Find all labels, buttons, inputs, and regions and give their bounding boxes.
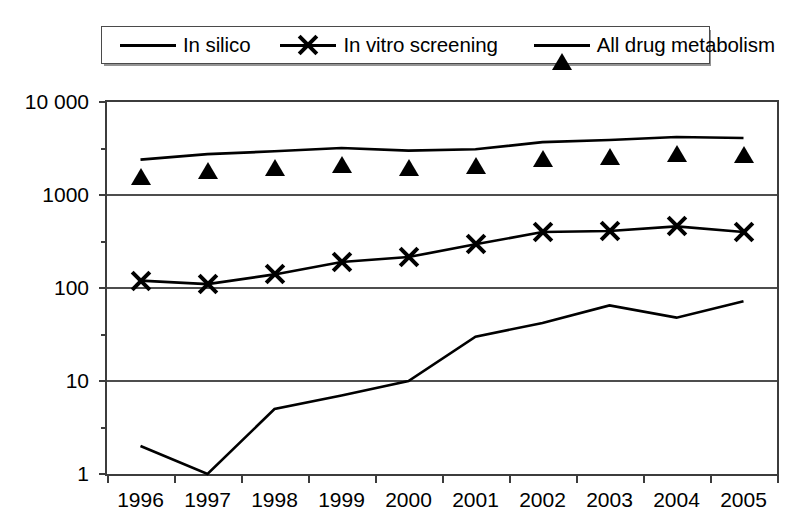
x-axis-label: 2005 xyxy=(720,488,767,512)
data-point xyxy=(466,140,486,158)
x-axis-label: 2003 xyxy=(586,488,633,512)
y-axis-label: 1000 xyxy=(42,183,99,207)
data-point xyxy=(600,131,620,149)
x-axis-tick xyxy=(174,474,176,483)
plot-area: 10 0001000100101199619971998199920002001… xyxy=(105,100,779,476)
x-axis-label: 1997 xyxy=(184,488,231,512)
triangle-marker-icon xyxy=(533,133,553,167)
triangle-marker-icon xyxy=(667,128,687,162)
data-point xyxy=(265,142,285,160)
x-axis-tick xyxy=(576,474,578,483)
chart-root: In silico In vitro screening All drug me… xyxy=(0,0,811,531)
data-point xyxy=(734,129,754,147)
data-point xyxy=(667,128,687,146)
triangle-marker-icon xyxy=(131,151,151,185)
legend-item-in-silico: In silico xyxy=(120,33,250,57)
legend-label: In silico xyxy=(183,33,250,57)
x-axis-tick xyxy=(509,474,511,483)
chart-legend: In silico In vitro screening All drug me… xyxy=(101,26,710,64)
x-axis-tick xyxy=(375,474,377,483)
x-axis-tick xyxy=(710,474,712,483)
series-line xyxy=(141,226,744,284)
triangle-marker-icon xyxy=(198,145,218,179)
x-axis-label: 1998 xyxy=(251,488,298,512)
y-axis-tick xyxy=(99,473,107,475)
y-axis-label: 10 xyxy=(66,369,99,393)
triangle-marker-icon xyxy=(734,129,754,163)
x-axis-tick xyxy=(241,474,243,483)
legend-label: In vitro screening xyxy=(343,33,497,57)
x-axis-label: 1999 xyxy=(318,488,365,512)
triangle-marker-icon xyxy=(332,139,352,173)
legend-item-in-vitro-screening: In vitro screening xyxy=(280,33,497,57)
y-axis-tick xyxy=(99,287,107,289)
triangle-marker-icon xyxy=(600,131,620,165)
data-point xyxy=(131,151,151,169)
x-axis-tick xyxy=(442,474,444,483)
y-axis-label: 1 xyxy=(77,462,99,486)
data-point xyxy=(332,139,352,157)
x-axis-label: 2001 xyxy=(452,488,499,512)
x-axis-tick xyxy=(777,474,779,483)
cross-marker-icon xyxy=(280,35,336,55)
series-line xyxy=(141,301,744,474)
series-line xyxy=(141,137,744,160)
data-point xyxy=(533,133,553,151)
x-axis-label: 2002 xyxy=(519,488,566,512)
y-axis-tick xyxy=(99,194,107,196)
y-axis-label: 10 000 xyxy=(25,90,99,114)
triangle-marker-icon xyxy=(534,35,590,55)
triangle-marker-icon xyxy=(399,142,419,176)
y-axis-tick xyxy=(99,101,107,103)
data-point xyxy=(399,142,419,160)
legend-label: All drug metabolism xyxy=(597,33,775,57)
y-axis-tick xyxy=(99,380,107,382)
x-axis-label: 2000 xyxy=(385,488,432,512)
x-axis-label: 1996 xyxy=(117,488,164,512)
x-axis-tick xyxy=(107,474,109,483)
data-point xyxy=(198,145,218,163)
x-axis-tick xyxy=(643,474,645,483)
triangle-marker-icon xyxy=(265,142,285,176)
y-axis-label: 100 xyxy=(54,276,99,300)
x-axis-label: 2004 xyxy=(653,488,700,512)
x-axis-tick xyxy=(308,474,310,483)
legend-item-all-drug-metabolism: All drug metabolism xyxy=(534,33,775,57)
diamond-marker-icon xyxy=(120,35,176,55)
triangle-marker-icon xyxy=(466,140,486,174)
